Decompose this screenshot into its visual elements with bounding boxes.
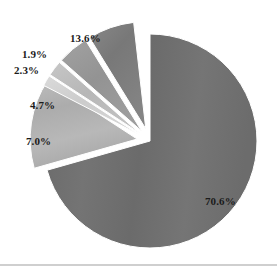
slice-label-2-3: 2.3%: [14, 65, 39, 76]
slice-label-1-9: 1.9%: [22, 49, 47, 60]
slice-label-7-0: 7.0%: [26, 136, 51, 147]
slice-label-4-7: 4.7%: [30, 100, 55, 111]
pie-slices-group: [30, 22, 257, 248]
pie-chart-figure: 70.6% 13.6% 7.0% 4.7% 2.3% 1.9%: [0, 0, 277, 266]
slice-label-70-6: 70.6%: [205, 196, 236, 207]
pie-chart-canvas: [0, 0, 277, 266]
slice-label-13-6: 13.6%: [70, 33, 101, 44]
